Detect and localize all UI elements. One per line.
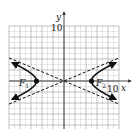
focus-point-1 (34, 78, 39, 83)
focus-label-f1-subscript: 1 (25, 82, 29, 89)
focus-point-2 (89, 78, 94, 83)
focus-label-f2: F2 (95, 78, 106, 89)
focus-label-f2-subscript: 2 (102, 82, 106, 89)
x-axis-label: x (121, 83, 126, 93)
focus-label-f1: F1 (18, 78, 29, 89)
x-tick-label: 10 (107, 84, 119, 94)
y-axis-label: y (55, 12, 62, 22)
y-tick-label: 10 (51, 23, 63, 33)
hyperbola-plot: y 10 10 x F1 F2 (0, 0, 136, 129)
